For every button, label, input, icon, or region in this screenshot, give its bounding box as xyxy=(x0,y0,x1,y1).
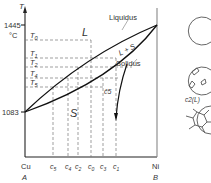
nucleation-label: c2(L) xyxy=(185,96,200,104)
phase-diagram: T 1445 °C 1083 T0 T1 T2 T4 T5 L Liquidus… xyxy=(0,0,211,183)
microstructures: c2(L) xyxy=(185,17,211,134)
grain-microstructure-icon xyxy=(186,106,211,134)
cooling-path-label: c̄5 xyxy=(104,88,112,95)
liquid-region-label: L xyxy=(82,26,88,38)
temp-1445: 1445 xyxy=(4,21,21,30)
two-phase-label: L + S xyxy=(117,42,137,58)
solidus-label: Solidus xyxy=(116,59,141,68)
c1-label: c1 xyxy=(113,163,120,172)
solid-region-label: S xyxy=(70,107,78,119)
liquidus-label: Liquidus xyxy=(109,13,137,22)
liquid-microstructure-icon xyxy=(188,17,211,45)
a-label: A xyxy=(21,173,27,182)
t2-label: T2 xyxy=(30,58,38,68)
b-label: B xyxy=(153,173,158,182)
composition-labels: c5 c4 c2 c0 c3 c1 xyxy=(50,163,120,172)
nucleation-microstructure-icon xyxy=(188,67,211,95)
cooling-path xyxy=(116,64,127,118)
solidus-curve xyxy=(25,25,157,112)
axes xyxy=(21,6,157,157)
cu-label: Cu xyxy=(21,162,31,171)
guide-lines xyxy=(25,40,132,157)
liquidus-curve xyxy=(25,25,157,112)
temp-unit: °C xyxy=(9,31,18,40)
temp-1083: 1083 xyxy=(2,108,19,117)
c4-label: c4 xyxy=(65,163,72,172)
c5-label: c5 xyxy=(50,163,57,172)
t0-label: T0 xyxy=(30,31,39,41)
c2-label: c2 xyxy=(75,163,82,172)
ni-label: Ni xyxy=(152,162,159,171)
c3-label: c3 xyxy=(100,163,107,172)
c0-label: c0 xyxy=(88,163,95,172)
t5-label: T5 xyxy=(30,78,39,88)
path-arrow-icon xyxy=(114,113,118,121)
